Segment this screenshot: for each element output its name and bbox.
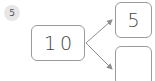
problem-number-badge: 5 (4, 5, 20, 21)
whole-value-box: 10 (31, 25, 85, 61)
arrow-to-top-part (86, 20, 112, 43)
arrow-to-bottom-part (86, 43, 112, 69)
part-two-answer-box[interactable] (115, 46, 152, 81)
number-bond-diagram: 5 10 5 (0, 0, 155, 81)
part-one-box: 5 (115, 2, 152, 38)
